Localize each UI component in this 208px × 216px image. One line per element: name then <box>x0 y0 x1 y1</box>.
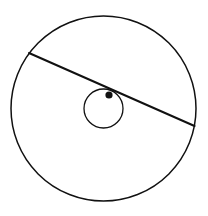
chord-line <box>29 53 195 126</box>
geometry-diagram <box>0 0 208 216</box>
outer-circle <box>11 16 196 201</box>
tangent-point <box>105 91 112 98</box>
inner-circle <box>84 89 123 128</box>
